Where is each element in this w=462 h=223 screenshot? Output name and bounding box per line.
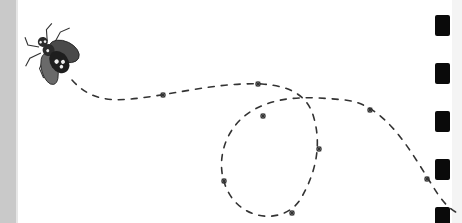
bee-icon bbox=[12, 13, 93, 94]
illustration-canvas bbox=[0, 0, 462, 223]
star-marker-icon bbox=[221, 178, 227, 184]
star-marker-icon bbox=[160, 92, 166, 98]
film-perforation bbox=[435, 159, 450, 180]
path-star-markers bbox=[160, 81, 430, 216]
film-perforation bbox=[435, 207, 450, 223]
film-perforation bbox=[435, 111, 450, 132]
star-marker-icon bbox=[260, 113, 266, 119]
film-perforation bbox=[435, 15, 450, 36]
star-marker-icon bbox=[367, 107, 373, 113]
star-marker-icon bbox=[255, 81, 261, 87]
dashed-flight-path bbox=[72, 80, 462, 216]
film-perforation bbox=[435, 63, 450, 84]
flight-path-art bbox=[0, 0, 462, 223]
star-marker-icon bbox=[424, 176, 430, 182]
star-marker-icon bbox=[316, 146, 322, 152]
star-marker-icon bbox=[289, 210, 295, 216]
